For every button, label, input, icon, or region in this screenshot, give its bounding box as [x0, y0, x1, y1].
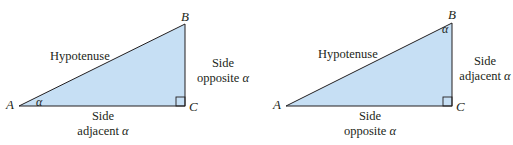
hypotenuse-label: Hypotenuse — [318, 47, 378, 61]
side-label-line2: opposite α — [190, 71, 256, 86]
angle-alpha-label: α — [36, 95, 42, 110]
side-label-line1: Side — [190, 56, 256, 71]
angle-alpha-label: α — [442, 22, 448, 37]
vertical-side-label: Side adjacent α — [455, 54, 513, 83]
hypotenuse-label: Hypotenuse — [50, 49, 110, 63]
left-right-triangle — [19, 24, 185, 106]
horizontal-side-label: Side opposite α — [335, 109, 405, 138]
vertex-a-label: A — [6, 97, 14, 113]
vertex-a-label: A — [273, 97, 281, 113]
vertex-b-label: B — [448, 7, 456, 23]
vertex-b-label: B — [181, 9, 189, 25]
vertex-c-label: C — [189, 99, 198, 115]
side-label-line2: opposite α — [335, 124, 405, 139]
side-label-line1: Side — [335, 109, 405, 124]
horizontal-side-label: Side adjacent α — [68, 109, 138, 138]
side-label-line1: Side — [455, 54, 513, 69]
vertical-side-label: Side opposite α — [190, 56, 256, 85]
side-label-line2: adjacent α — [68, 124, 138, 139]
side-label-line1: Side — [68, 109, 138, 124]
vertex-c-label: C — [456, 99, 465, 115]
side-label-line2: adjacent α — [455, 69, 513, 84]
right-right-triangle — [286, 23, 452, 106]
